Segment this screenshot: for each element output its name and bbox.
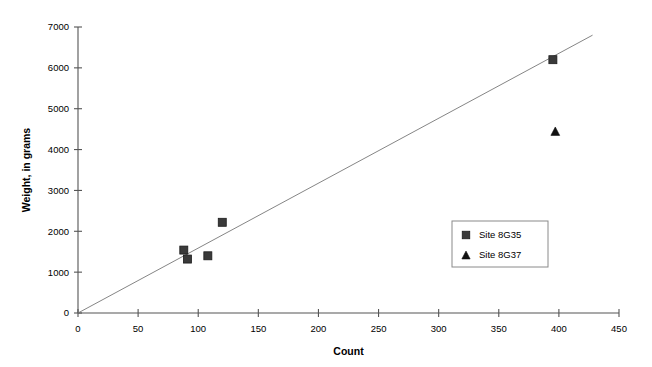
y-tick-label: 4000 [48,144,69,155]
y-axis-title: Weight, in grams [20,128,32,213]
x-tick-label: 250 [371,323,387,334]
y-tick-label: 2000 [48,226,69,237]
y-tick-label: 1000 [48,267,69,278]
data-point-square [180,246,188,254]
data-point-triangle [551,127,560,135]
x-tick-label: 0 [75,323,80,334]
y-tick-label: 7000 [48,21,69,32]
x-tick-label: 300 [431,323,447,334]
trend-line-segment [78,35,593,313]
data-point-square [218,218,226,226]
data-point-square [549,56,557,64]
chart-canvas: 01000200030004000500060007000 0501001502… [0,0,652,367]
chart-legend: Site 8G35Site 8G37 [452,221,548,267]
x-tick-label: 50 [133,323,144,334]
x-axis-title: Count [333,345,364,357]
y-axis-ticks: 01000200030004000500060007000 [48,21,82,318]
y-tick-label: 0 [64,307,69,318]
data-point-square [183,255,191,263]
data-point-square [204,252,212,260]
legend-label: Site 8G37 [479,249,521,260]
x-tick-label: 400 [551,323,567,334]
x-tick-label: 200 [311,323,327,334]
x-tick-label: 100 [190,323,206,334]
x-tick-label: 350 [491,323,507,334]
y-tick-label: 5000 [48,103,69,114]
x-tick-label: 450 [611,323,627,334]
x-tick-label: 150 [250,323,266,334]
scatter-chart: 01000200030004000500060007000 0501001502… [0,0,652,367]
legend-marker-square [462,231,470,239]
trend-line [78,35,593,313]
y-tick-label: 6000 [48,62,69,73]
y-tick-label: 3000 [48,185,69,196]
legend-label: Site 8G35 [479,229,521,240]
